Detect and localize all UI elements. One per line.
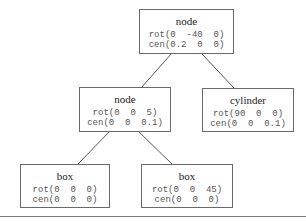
node-rotation: rot(0 0 0) [21, 185, 109, 195]
node-rotation: rot(0 0 5) [80, 108, 170, 118]
tree-node-box-2: box rot(0 0 45) cen(0 0 0) [141, 164, 233, 208]
edge-root-mid [141, 53, 172, 88]
node-rotation: rot(0 -40 0) [140, 30, 233, 40]
tree-node-mid: node rot(0 0 5) cen(0 0 0.1) [79, 87, 171, 132]
node-label: cylinder [203, 94, 293, 106]
node-center: cen(0 0 0.1) [203, 119, 293, 129]
node-label: box [142, 170, 232, 182]
node-rotation: rot(0 0 45) [142, 185, 232, 195]
tree-node-cylinder: cylinder rot(90 0 0) cen(0 0 0.1) [202, 88, 294, 132]
node-center: cen(0 0 0) [21, 195, 109, 205]
scene-graph-diagram: node rot(0 -40 0) cen(0.2 0 0) node rot(… [0, 0, 306, 222]
node-label: box [21, 170, 109, 182]
node-center: cen(0 0 0.1) [80, 118, 170, 128]
edge-mid-box2 [138, 131, 172, 164]
node-rotation: rot(90 0 0) [203, 109, 293, 119]
node-center: cen(0 0 0) [142, 195, 232, 205]
node-label: node [140, 15, 233, 27]
node-label: node [80, 93, 170, 105]
bottom-divider [0, 216, 306, 217]
tree-node-root: node rot(0 -40 0) cen(0.2 0 0) [139, 9, 234, 54]
edge-mid-box1 [78, 131, 110, 164]
edge-root-cylinder [201, 53, 234, 88]
node-center: cen(0.2 0 0) [140, 40, 233, 50]
tree-node-box-1: box rot(0 0 0) cen(0 0 0) [20, 164, 110, 208]
